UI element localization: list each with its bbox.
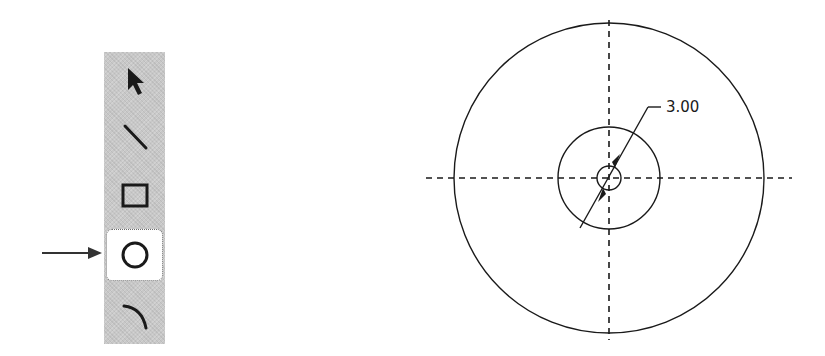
dimension-value-label: 3.00	[666, 98, 699, 116]
cad-drawing-canvas[interactable]: 3.00	[0, 0, 825, 356]
